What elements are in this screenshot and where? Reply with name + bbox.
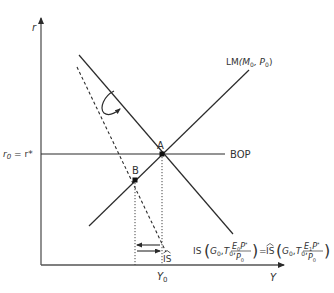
rate-label: r0 = r*: [3, 149, 33, 161]
svg-text:P0: P0: [236, 253, 244, 263]
svg-text:B: B: [132, 165, 139, 176]
svg-text:E0P*: E0P*: [232, 241, 248, 252]
svg-text:): ): [252, 241, 258, 260]
lm-curve: [89, 70, 249, 226]
svg-text:): ): [324, 241, 330, 260]
svg-text:IS: IS: [193, 246, 202, 256]
is-lm-bop-diagram: r Y BOP r0 = r* LM(M0, P0) IS A B Y0 I: [0, 0, 334, 293]
lm-label: LM(M0, P0): [226, 57, 272, 68]
svg-text:IS: IS: [163, 254, 172, 264]
shift-arrow-icon: [102, 91, 120, 114]
point-b: B: [132, 165, 139, 183]
x-axis-label: Y: [270, 272, 277, 283]
is-curve: [79, 55, 233, 234]
is-hat-label: IS: [163, 251, 172, 265]
svg-text:A: A: [157, 140, 164, 151]
svg-text:P0: P0: [308, 253, 316, 263]
bop-label: BOP: [230, 149, 251, 160]
svg-text:IS: IS: [266, 246, 275, 256]
is-equation: IS ( G0,T0, E0P* P0 ) = IS ( G0,T0, E1P*…: [193, 241, 330, 263]
svg-text:E1P*: E1P*: [304, 241, 320, 252]
y0-label: Y0: [157, 271, 168, 284]
y-axis-label: r: [32, 22, 37, 33]
